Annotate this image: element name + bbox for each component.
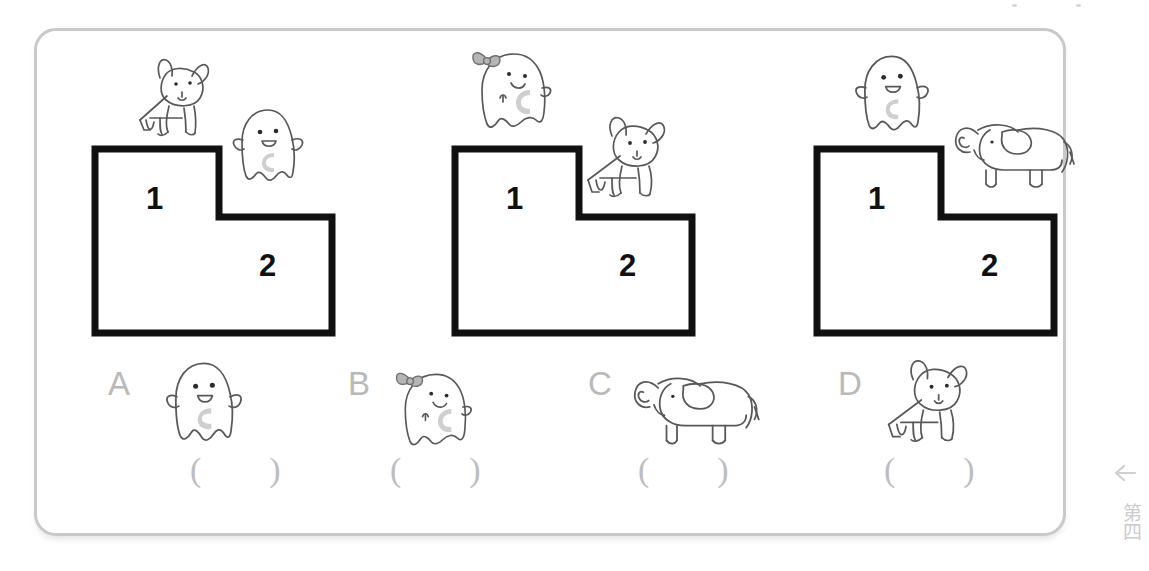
ghost-with-bow-icon [388,359,484,459]
worksheet-page: 1 2 [0,0,1149,571]
crop-mark-left [1012,4,1017,7]
step-shape-one: 1 2 [91,145,336,337]
option-d-letter: D [838,367,862,400]
margin-characters: 第四 [1119,503,1142,541]
option-a-answer-box[interactable]: ( ) [190,453,281,487]
step-group-three: 1 2 [786,28,1116,358]
ghost-icon [844,46,940,142]
option-d[interactable]: D [824,355,1074,495]
crop-mark-right [1076,4,1081,7]
option-c[interactable]: C ( [574,355,844,495]
step-one-number: 1 [506,181,523,217]
margin-annotation: 第四 [1109,455,1149,571]
option-c-letter: C [588,367,612,400]
dog-icon [876,351,984,453]
step-shape-three: 1 2 [813,145,1058,337]
step-group-two: 1 2 [424,28,754,358]
step-group-one: 1 2 [64,28,394,358]
option-c-answer-box[interactable]: ( ) [638,453,729,487]
left-arrow-icon [1111,459,1141,493]
option-a-letter: A [108,367,130,400]
ghost-icon [156,355,252,451]
step-one-number: 1 [868,181,885,217]
step-two-number: 2 [259,248,276,284]
answer-options: A ( ) B [34,355,1066,495]
option-b[interactable]: B ( ) [334,355,584,495]
option-a[interactable]: A ( ) [94,355,344,495]
ghost-with-bow-icon [464,38,564,142]
step-groups: 1 2 [34,28,1066,358]
step-two-number: 2 [619,248,636,284]
step-two-number: 2 [981,248,998,284]
option-b-letter: B [348,367,370,400]
step-shape-two: 1 2 [451,145,696,337]
dog-icon [126,48,226,148]
elephant-icon [612,369,764,451]
option-d-answer-box[interactable]: ( ) [884,453,975,487]
option-b-answer-box[interactable]: ( ) [390,453,481,487]
step-one-number: 1 [146,181,163,217]
